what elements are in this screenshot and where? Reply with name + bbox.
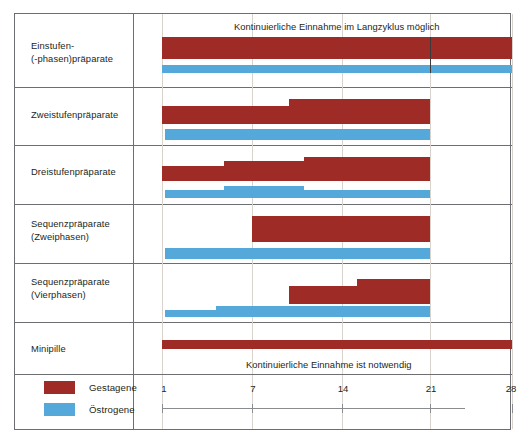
bar-gestagene-sequenz-vierphasen-phase2 xyxy=(357,279,430,304)
row-label-einstufen: Einstufen- (-phasen)präparate xyxy=(31,40,133,65)
bar-gestagene-minipille xyxy=(162,340,512,349)
legend-item-oestrogene: Östrogene xyxy=(44,403,135,416)
legend-label-oestrogene: Östrogene xyxy=(89,404,135,415)
x-axis-tick-14 xyxy=(342,404,343,413)
row-label-line2: (-phasen)präparate xyxy=(31,53,133,66)
row-label-sequenz-zwei: Sequenzpräparate (Zweiphasen) xyxy=(31,218,133,243)
bar-gestagene-einstufen xyxy=(162,37,512,59)
bar-oestrogene-sequenz-zweiphasen xyxy=(165,248,430,259)
x-axis-label-14: 14 xyxy=(338,383,349,394)
row-label-sequenz-vier: Sequenzpräparate (Vierphasen) xyxy=(31,276,133,301)
bar-oestrogene-einstufen xyxy=(162,65,512,73)
row-label-line2: (Zweiphasen) xyxy=(31,231,133,244)
row-label-zweistufen: Zweistufenpräparate xyxy=(31,109,133,122)
row-label-dreistufen: Dreistufenpräparate xyxy=(31,166,133,179)
bar-oestrogene-sequenz-vierphasen-phase1 xyxy=(165,310,216,317)
bar-gestagene-sequenz-zweiphasen xyxy=(252,216,430,242)
bar-gestagene-zweistufen-phase1 xyxy=(162,106,289,124)
gridline-day-21 xyxy=(430,14,431,429)
bar-gestagene-sequenz-vierphasen-phase1 xyxy=(289,286,357,304)
row-label-minipille: Minipille xyxy=(31,343,133,356)
legend-label-gestagene: Gestagene xyxy=(89,382,137,393)
x-axis-label-1: 1 xyxy=(161,383,166,394)
bar-oestrogene-dreistufen-phase3 xyxy=(304,190,430,198)
plot-area: Kontinuierliche Einnahme im Langzyklus m… xyxy=(134,14,511,429)
legend-swatch-oestrogene xyxy=(44,403,75,416)
row-label-line1: Dreistufenpräparate xyxy=(31,166,133,179)
x-axis-label-7: 7 xyxy=(250,383,255,394)
figure-root: Einstufen- (-phasen)präparate Zweistufen… xyxy=(0,0,526,445)
x-axis-tick-28 xyxy=(512,404,513,413)
annotation-langzyklus: Kontinuierliche Einnahme im Langzyklus m… xyxy=(234,21,440,33)
legend-swatch-gestagene xyxy=(44,381,75,394)
gridline-day-28 xyxy=(512,14,513,429)
category-label-column: Einstufen- (-phasen)präparate Zweistufen… xyxy=(15,14,134,429)
annotation-notwendig: Kontinuierliche Einnahme ist notwendig xyxy=(246,359,412,371)
x-axis: 1 7 14 21 28 xyxy=(134,374,511,429)
chart-frame: Einstufen- (-phasen)präparate Zweistufen… xyxy=(14,13,511,430)
gridline-day-1 xyxy=(162,14,163,429)
legend-axis-strip: Gestagene Östrogene 1 7 14 21 28 xyxy=(15,374,512,429)
bar-gestagene-zweistufen-phase2 xyxy=(289,99,430,124)
row-label-line1: Minipille xyxy=(31,343,133,356)
row-label-line1: Sequenzpräparate xyxy=(31,218,133,231)
legend-item-gestagene: Gestagene xyxy=(44,381,137,394)
bar-oestrogene-sequenz-vierphasen-phase2 xyxy=(216,306,430,317)
x-axis-tick-7 xyxy=(252,404,253,413)
x-axis-label-28: 28 xyxy=(506,383,517,394)
bar-gestagene-dreistufen-phase1 xyxy=(162,166,224,181)
row-label-line1: Zweistufenpräparate xyxy=(31,109,133,122)
marker-line-day-21 xyxy=(430,37,431,73)
x-axis-label-21: 21 xyxy=(426,383,437,394)
x-axis-line xyxy=(162,408,465,409)
x-axis-tick-1 xyxy=(162,404,163,413)
bar-oestrogene-dreistufen-phase1 xyxy=(165,190,224,198)
bar-gestagene-dreistufen-phase3 xyxy=(304,157,430,181)
bar-oestrogene-dreistufen-phase2 xyxy=(224,186,304,198)
bar-oestrogene-zweistufen xyxy=(165,129,430,140)
x-axis-tick-21 xyxy=(430,404,431,413)
row-label-line1: Sequenzpräparate xyxy=(31,276,133,289)
row-label-line1: Einstufen- xyxy=(31,40,133,53)
row-label-line2: (Vierphasen) xyxy=(31,289,133,302)
bar-gestagene-dreistufen-phase2 xyxy=(224,161,304,181)
